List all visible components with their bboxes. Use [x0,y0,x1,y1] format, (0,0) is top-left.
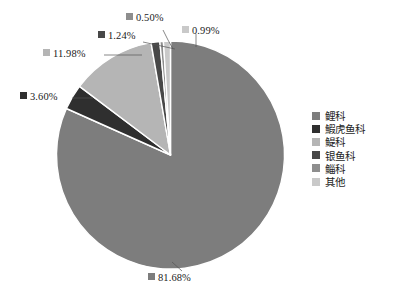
slice-label-qita: 0.99% [182,25,220,36]
slice-label-liki-swatch [148,273,155,280]
slice-label-ziyu-value: 0.50% [136,12,164,23]
legend-swatch-1 [312,125,320,133]
legend-item-4[interactable]: 鲻科 [312,162,365,175]
legend-item-0[interactable]: 鲤科 [312,109,365,122]
legend-item-2[interactable]: 鳀科 [312,135,365,148]
slice-label-tiji-swatch [43,49,50,56]
chart-legend: 鲤科鰕虎鱼科鳀科银鱼科鲻科其他 [312,109,365,188]
slice-label-ziyu-swatch [126,13,133,20]
legend-swatch-2 [312,138,320,146]
slice-label-xiahu: 3.60% [20,91,58,102]
slice-label-yinyu-swatch [98,31,105,38]
legend-swatch-5 [312,178,320,186]
legend-swatch-0 [312,112,320,120]
slice-label-liki-value: 81.68% [158,272,191,283]
slice-label-yinyu: 1.24% [98,30,136,41]
legend-item-1[interactable]: 鰕虎鱼科 [312,122,365,135]
legend-swatch-3 [312,151,320,159]
legend-label-5: 其他 [325,174,345,189]
pie-slices [57,41,285,269]
slice-label-tiji: 11.98% [43,48,86,59]
slice-label-yinyu-value: 1.24% [108,30,136,41]
slice-label-qita-swatch [182,26,189,33]
slice-label-xiahu-value: 3.60% [30,91,58,102]
legend-item-3[interactable]: 银鱼科 [312,149,365,162]
legend-swatch-4 [312,164,320,172]
slice-label-liki: 81.68% [148,272,191,283]
slice-label-qita-value: 0.99% [192,25,220,36]
chart-canvas: 0.99% 0.50% 1.24% 11.98% 3.60% 81.68% 鲤科… [0,0,398,296]
legend-item-5[interactable]: 其他 [312,175,365,188]
slice-label-ziyu: 0.50% [126,12,164,23]
slice-label-xiahu-swatch [20,92,27,99]
slice-label-tiji-value: 11.98% [53,48,86,59]
